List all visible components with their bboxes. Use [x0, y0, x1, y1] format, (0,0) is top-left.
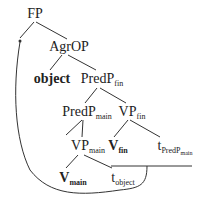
node-v-main: Vmain [59, 171, 86, 190]
node-object: object [34, 72, 71, 86]
tree-edges [0, 0, 206, 198]
node-vp-fin: VPfin [119, 105, 146, 124]
node-v-fin: Vfin [108, 139, 127, 158]
node-t-object: tobject [111, 171, 134, 190]
node-t-predp-main: tPredPmain [157, 139, 192, 160]
node-agrop: AgrOP [49, 40, 89, 54]
node-vp-main: VPmain [71, 139, 105, 158]
node-predp-fin: PredPfin [81, 72, 123, 91]
node-predp-main: PredPmain [62, 105, 111, 124]
syntax-tree-diagram: FP AgrOP object PredPfin PredPmain VPfin… [0, 0, 206, 198]
node-fp: FP [27, 7, 43, 21]
